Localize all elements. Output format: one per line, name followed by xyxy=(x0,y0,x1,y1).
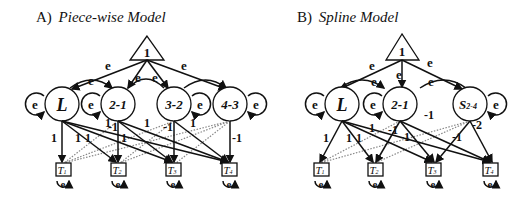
svg-text:1: 1 xyxy=(51,131,57,145)
svg-text:e: e xyxy=(312,97,318,112)
observed-t2: T2 e xyxy=(111,163,126,190)
svg-text:e: e xyxy=(319,178,324,190)
svg-text:e: e xyxy=(371,74,377,89)
svg-text:e: e xyxy=(431,178,436,190)
svg-text:e: e xyxy=(152,70,158,85)
svg-text:2-1: 2-1 xyxy=(108,97,126,112)
svg-text:e: e xyxy=(488,178,493,190)
svg-text:-2: -2 xyxy=(472,118,482,132)
svg-text:-1: -1 xyxy=(108,120,118,134)
svg-text:e: e xyxy=(171,178,176,190)
svg-text:1: 1 xyxy=(369,121,375,135)
svg-text:1: 1 xyxy=(346,131,352,145)
latent-l-b: L xyxy=(325,87,359,121)
svg-text:e: e xyxy=(116,178,121,190)
svg-text:e: e xyxy=(428,74,434,89)
svg-text:1: 1 xyxy=(85,131,91,145)
svg-text:2-1: 2-1 xyxy=(390,97,408,112)
observed-t3: T3 e xyxy=(166,163,181,190)
svg-text:1: 1 xyxy=(144,45,151,60)
svg-text:-1: -1 xyxy=(232,131,242,145)
observed-t1: T1 e xyxy=(56,163,71,190)
constant-triangle: 1 xyxy=(130,36,164,60)
svg-text:e: e xyxy=(135,70,141,85)
svg-text:e: e xyxy=(370,97,376,112)
svg-text:e: e xyxy=(88,97,94,112)
svg-text:e: e xyxy=(369,58,375,73)
observed-t2-b: T2 e xyxy=(368,163,383,190)
svg-text:4-3: 4-3 xyxy=(220,97,239,112)
svg-text:e: e xyxy=(396,67,402,82)
panel-a-piecewise-model: A) Piece-wise Model 1 e e e e e L 2-1 xyxy=(25,9,266,190)
svg-text:1: 1 xyxy=(356,131,362,145)
growth-model-diagrams: A) Piece-wise Model 1 e e e e e L 2-1 xyxy=(0,0,523,208)
svg-text:e: e xyxy=(197,97,203,112)
loading-labels: 1 1 1 1 -1 1 1 -1 1 -1 xyxy=(51,116,242,145)
svg-text:e: e xyxy=(61,178,66,190)
observed-t3-b: T3 e xyxy=(426,163,441,190)
svg-text:3-2: 3-2 xyxy=(164,97,183,112)
panel-b-title: B) Spline Model xyxy=(297,9,398,26)
svg-text:1: 1 xyxy=(399,44,406,59)
svg-text:-1: -1 xyxy=(400,130,410,144)
svg-text:1: 1 xyxy=(190,116,196,130)
svg-text:-1: -1 xyxy=(388,123,398,137)
latent-4-3: 4-3 xyxy=(213,87,247,121)
svg-text:e: e xyxy=(253,97,259,112)
svg-text:1: 1 xyxy=(121,131,127,145)
svg-text:-1: -1 xyxy=(163,120,173,134)
svg-text:L: L xyxy=(56,95,68,115)
panel-a-title: A) Piece-wise Model xyxy=(36,9,166,26)
svg-text:e: e xyxy=(88,73,94,88)
latent-2-1-b: 2-1 xyxy=(383,87,417,121)
svg-text:e: e xyxy=(427,55,433,70)
svg-text:-1: -1 xyxy=(424,108,434,122)
latent-3-2: 3-2 xyxy=(157,87,191,121)
svg-text:e: e xyxy=(181,58,187,73)
svg-text:L: L xyxy=(336,95,348,115)
panel-b-spline-model: B) Spline Model 1 e e e e e L 2-1 S2-4 xyxy=(297,9,507,190)
latent-spline-s: S2-4 xyxy=(453,87,487,121)
svg-text:e: e xyxy=(227,178,232,190)
svg-text:1: 1 xyxy=(323,131,329,145)
svg-text:e: e xyxy=(493,97,499,112)
svg-text:e: e xyxy=(373,178,378,190)
svg-text:e: e xyxy=(32,97,38,112)
svg-text:1: 1 xyxy=(75,131,81,145)
observed-t1-b: T1 e xyxy=(314,163,329,190)
svg-text:-1: -1 xyxy=(452,130,462,144)
svg-text:1: 1 xyxy=(144,116,150,130)
latent-l: L xyxy=(45,87,79,121)
observed-t4: T4 e xyxy=(222,163,237,190)
observed-t4-b: T4 e xyxy=(483,163,498,190)
constant-triangle-b: 1 xyxy=(386,34,419,60)
svg-text:e: e xyxy=(105,58,111,73)
